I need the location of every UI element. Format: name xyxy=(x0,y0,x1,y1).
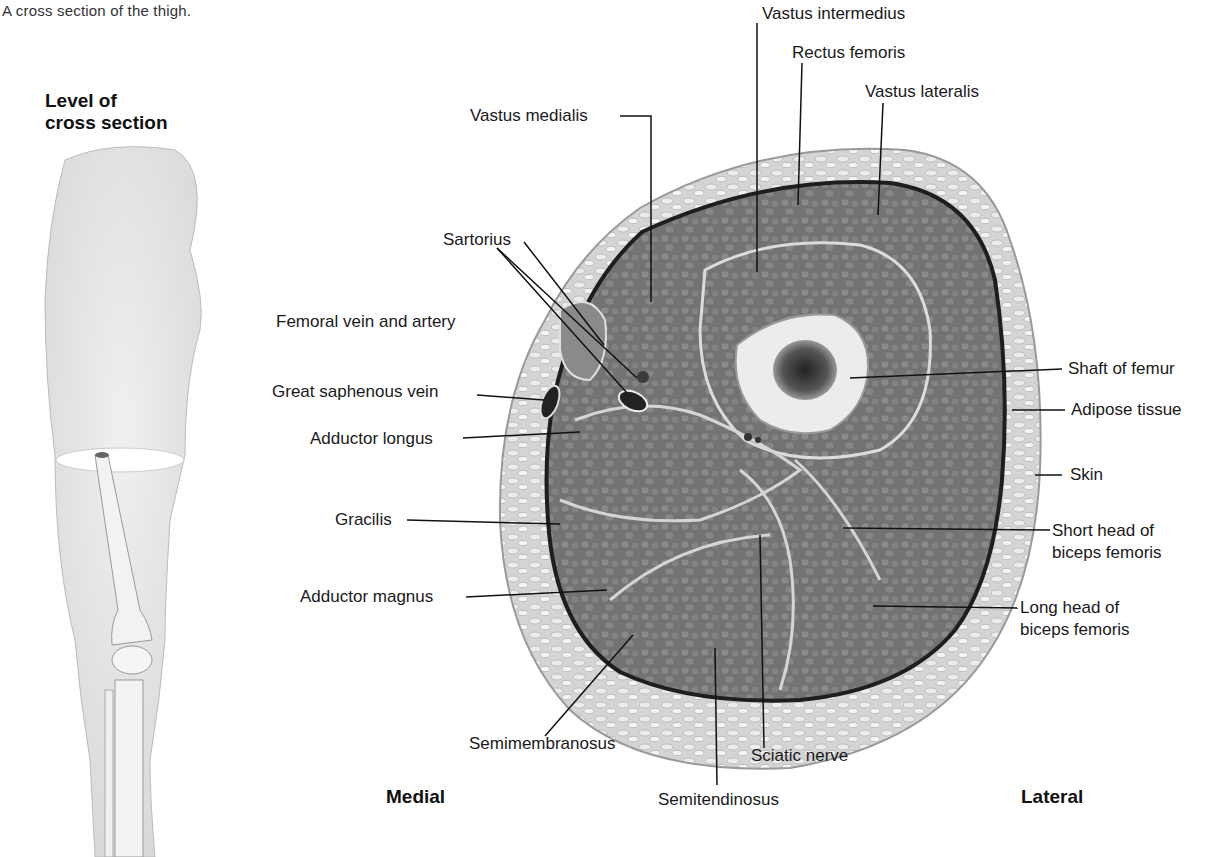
label-semimembranosus: Semimembranosus xyxy=(469,734,615,754)
figure-caption: A cross section of the thigh. xyxy=(2,2,191,19)
thigh-illustration xyxy=(0,0,1211,857)
femur-cut-icon xyxy=(95,452,109,458)
long-head-line1: Long head of xyxy=(1020,597,1130,619)
leg-drawing xyxy=(45,147,201,857)
label-short-head-biceps-femoris: Short head of biceps femoris xyxy=(1052,520,1162,564)
label-vastus-medialis: Vastus medialis xyxy=(470,106,588,126)
label-skin: Skin xyxy=(1070,465,1103,485)
label-vastus-lateralis: Vastus lateralis xyxy=(865,82,979,102)
direction-medial: Medial xyxy=(386,786,445,808)
short-head-line2: biceps femoris xyxy=(1052,542,1162,564)
direction-lateral: Lateral xyxy=(1021,786,1083,808)
label-adductor-longus: Adductor longus xyxy=(310,429,433,449)
label-shaft-of-femur: Shaft of femur xyxy=(1068,359,1175,379)
label-long-head-biceps-femoris: Long head of biceps femoris xyxy=(1020,597,1130,641)
bone-marrow xyxy=(773,340,837,400)
label-rectus-femoris: Rectus femoris xyxy=(792,43,905,63)
level-panel-title: Level of cross section xyxy=(45,90,168,134)
cross-section xyxy=(500,149,1041,769)
patella xyxy=(112,646,152,674)
label-great-saphenous-vein: Great saphenous vein xyxy=(272,382,438,402)
short-head-line1: Short head of xyxy=(1052,520,1162,542)
label-vastus-intermedius: Vastus intermedius xyxy=(762,4,905,24)
tibia xyxy=(115,680,143,857)
femoral-artery-shape xyxy=(637,371,649,383)
level-title-line1: Level of xyxy=(45,90,168,112)
label-sciatic-nerve: Sciatic nerve xyxy=(751,746,848,766)
long-head-line2: biceps femoris xyxy=(1020,619,1130,641)
level-title-line2: cross section xyxy=(45,112,168,134)
label-femoral-vein-artery: Femoral vein and artery xyxy=(276,312,456,332)
label-adductor-magnus: Adductor magnus xyxy=(300,587,433,607)
label-sartorius: Sartorius xyxy=(443,230,511,250)
label-gracilis: Gracilis xyxy=(335,510,392,530)
label-adipose-tissue: Adipose tissue xyxy=(1071,400,1182,420)
label-semitendinosus: Semitendinosus xyxy=(658,790,779,810)
section-plane xyxy=(56,448,184,472)
fibula xyxy=(105,690,113,857)
